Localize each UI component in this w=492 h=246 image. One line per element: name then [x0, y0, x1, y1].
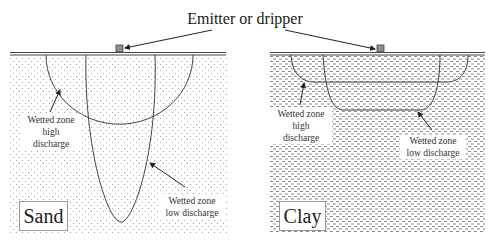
label-line: Wetted zone [158, 195, 226, 207]
label-line: Wetted zone [270, 108, 332, 120]
sand-soil-label: Sand [19, 201, 68, 231]
clay-soil-label: Clay [279, 201, 326, 231]
clay-high-label: Wetted zone high discharge [270, 108, 332, 144]
label-line: low discharge [400, 147, 466, 159]
label-line: Wetted zone [400, 135, 466, 147]
sand-high-label: Wetted zone high discharge [20, 114, 82, 150]
title-arrow-left [125, 30, 212, 48]
sand-low-label: Wetted zone low discharge [158, 195, 226, 219]
clay-emitter-icon [377, 45, 384, 52]
sand-emitter-icon [116, 45, 123, 52]
label-line: high [20, 126, 82, 138]
label-line: low discharge [158, 207, 226, 219]
label-line: discharge [270, 132, 332, 144]
clay-low-label: Wetted zone low discharge [400, 135, 466, 159]
diagram-title: Emitter or dripper [150, 10, 340, 28]
label-line: discharge [20, 138, 82, 150]
label-line: high [270, 120, 332, 132]
title-arrow-right [285, 30, 375, 49]
label-line: Wetted zone [20, 114, 82, 126]
